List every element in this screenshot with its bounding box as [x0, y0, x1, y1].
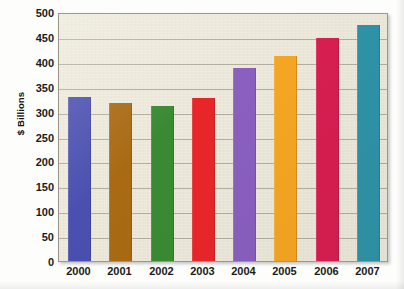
bar[interactable] [316, 38, 339, 261]
x-axis-tick-label: 2002 [141, 266, 182, 277]
x-axis-tick-label: 2004 [223, 266, 264, 277]
bar-fill [151, 106, 174, 261]
y-axis-tick-label: 300 [16, 107, 54, 118]
bar-fill [68, 97, 91, 261]
y-axis-tick-label: 400 [16, 57, 54, 68]
x-axis-tick-label: 2007 [347, 266, 388, 277]
bar[interactable] [151, 106, 174, 261]
y-axis-tick-label: 50 [16, 232, 54, 243]
bar-fill [233, 68, 256, 261]
x-axis-tick-label: 2000 [58, 266, 99, 277]
y-axis-tick-label: 250 [16, 132, 54, 143]
y-axis-tick-label: 150 [16, 182, 54, 193]
bar[interactable] [274, 56, 297, 261]
bar[interactable] [357, 25, 380, 261]
x-axis-tick-label: 2005 [264, 266, 305, 277]
bar-fill [316, 38, 339, 261]
y-axis-tick-label: 100 [16, 207, 54, 218]
bar-fill [109, 103, 132, 261]
bar[interactable] [192, 98, 215, 261]
y-axis-tick-label: 0 [16, 257, 54, 268]
x-axis-tick-label: 2006 [306, 266, 347, 277]
y-axis-tick-label: 350 [16, 82, 54, 93]
bar[interactable] [233, 68, 256, 261]
bar-fill [357, 25, 380, 261]
bar-fill [192, 98, 215, 261]
bar-fill [274, 56, 297, 261]
bar-chart-figure: $ Billions 05010015020025030035040045050… [0, 0, 404, 289]
x-axis-tick-label-group: 20002001200220032004200520062007 [58, 266, 388, 286]
y-axis-tick-label: 500 [16, 8, 54, 19]
bar[interactable] [109, 103, 132, 261]
bar[interactable] [68, 97, 91, 261]
plot-area [58, 13, 388, 262]
y-axis-tick-label: 200 [16, 157, 54, 168]
bar-group [59, 14, 387, 261]
y-axis-tick-label-group: 050100150200250300350400450500 [16, 0, 54, 289]
y-axis-tick-label: 450 [16, 32, 54, 43]
x-axis-tick-label: 2003 [182, 266, 223, 277]
scan-edge-right [396, 0, 404, 289]
x-axis-tick-label: 2001 [99, 266, 140, 277]
